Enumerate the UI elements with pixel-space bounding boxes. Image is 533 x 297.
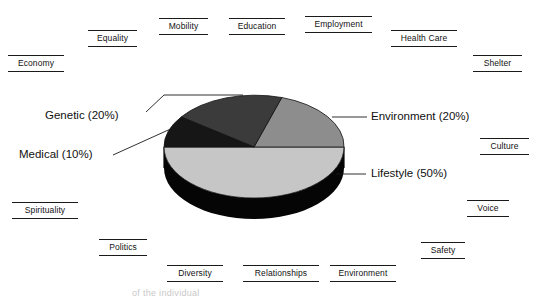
determinant-label-relationships: Relationships <box>243 265 319 282</box>
determinant-label-mobility: Mobility <box>159 18 208 35</box>
determinant-label-equality: Equality <box>88 30 137 47</box>
pie-chart-figure: Genetic (20%) Medical (10%) Environment … <box>0 0 533 297</box>
determinant-label-employment: Employment <box>305 16 372 33</box>
callout-medical: Medical (10%) <box>19 149 93 161</box>
determinant-label-politics: Politics <box>99 239 147 256</box>
clipped-caption-fragment: of the individual <box>132 288 432 297</box>
callout-environment: Environment (20%) <box>371 111 469 123</box>
determinant-label-safety: Safety <box>421 242 465 259</box>
callout-lifestyle: Lifestyle (50%) <box>371 168 447 180</box>
determinant-label-voice: Voice <box>467 200 509 217</box>
determinant-label-diversity: Diversity <box>167 265 223 282</box>
determinant-label-education: Education <box>229 18 285 35</box>
determinant-label-culture: Culture <box>480 138 529 155</box>
determinant-label-health-care: Health Care <box>391 30 457 47</box>
callout-genetic: Genetic (20%) <box>45 110 119 122</box>
determinant-label-environment-bottom: Environment <box>330 265 396 282</box>
determinant-label-spirituality: Spirituality <box>12 202 78 219</box>
determinant-label-economy: Economy <box>8 55 64 72</box>
determinant-label-shelter: Shelter <box>473 55 522 72</box>
